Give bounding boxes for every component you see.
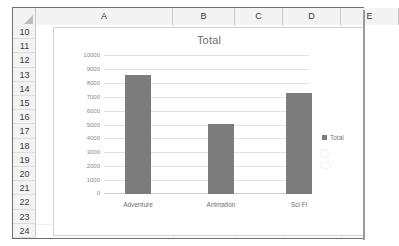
- row-header-23[interactable]: 23: [13, 210, 36, 224]
- bar-animation[interactable]: [208, 124, 234, 194]
- row-header-11[interactable]: 11: [13, 39, 36, 53]
- row-header-18[interactable]: 18: [13, 139, 36, 153]
- y-axis-tick-label: 9000: [87, 66, 100, 72]
- row-header-10[interactable]: 10: [13, 25, 36, 39]
- select-all-button[interactable]: [13, 8, 36, 25]
- y-axis-tick-label: 2000: [87, 163, 100, 169]
- scan-artifact: [320, 162, 331, 169]
- row-header-24[interactable]: 24: [13, 224, 36, 238]
- bar-sci-fi[interactable]: [286, 93, 312, 194]
- x-axis-label-animation: Animation: [207, 201, 236, 208]
- y-axis-tick-label: 10000: [83, 52, 100, 58]
- y-axis-tick-label: 0: [97, 190, 100, 196]
- select-all-triangle-icon: [24, 15, 33, 24]
- y-axis-tick-label: 1000: [87, 177, 100, 183]
- y-axis-tick-label: 7000: [87, 94, 100, 100]
- legend-swatch-icon: [322, 135, 327, 140]
- chart-plot-area: 10000 9000 8000 7000 6000 5000: [104, 55, 309, 194]
- chart-legend[interactable]: Total: [322, 134, 344, 141]
- bar-adventure[interactable]: [125, 75, 151, 194]
- spreadsheet-grid[interactable]: Total 10000 9000 8000 7000: [36, 25, 363, 238]
- row-header-17[interactable]: 17: [13, 124, 36, 138]
- spreadsheet-frame: A B C D E 10 11 12 13 14 15 16 17 18 19 …: [12, 7, 364, 239]
- row-header-15[interactable]: 15: [13, 96, 36, 110]
- x-axis-label-sci-fi: Sci Fi: [291, 201, 307, 208]
- row-header-19[interactable]: 19: [13, 153, 36, 167]
- row-header-21[interactable]: 21: [13, 181, 36, 195]
- embedded-bar-chart[interactable]: Total 10000 9000 8000 7000: [53, 27, 363, 236]
- y-axis-tick-label: 3000: [87, 149, 100, 155]
- y-axis-tick-label: 5000: [87, 122, 100, 128]
- column-header-d[interactable]: D: [283, 8, 341, 25]
- y-axis-tick-label: 6000: [87, 108, 100, 114]
- row-header-20[interactable]: 20: [13, 167, 36, 181]
- gridline: 10000: [104, 55, 309, 56]
- scan-artifact: [320, 149, 329, 158]
- row-header-22[interactable]: 22: [13, 195, 36, 209]
- y-axis-tick-label: 4000: [87, 135, 100, 141]
- legend-label-total: Total: [330, 134, 344, 141]
- y-axis-tick-label: 8000: [87, 80, 100, 86]
- x-axis-label-adventure: Adventure: [123, 201, 153, 208]
- chart-title: Total: [54, 34, 363, 46]
- column-header-c[interactable]: C: [235, 8, 283, 25]
- gridline: 9000: [104, 69, 309, 70]
- column-header-row: A B C D E: [13, 8, 363, 25]
- column-header-b[interactable]: B: [173, 8, 235, 25]
- row-header-12[interactable]: 12: [13, 53, 36, 67]
- row-header-16[interactable]: 16: [13, 110, 36, 124]
- column-header-e[interactable]: E: [341, 8, 399, 25]
- row-header-column: 10 11 12 13 14 15 16 17 18 19 20 21 22 2…: [13, 25, 36, 238]
- row-header-13[interactable]: 13: [13, 68, 36, 82]
- column-header-a[interactable]: A: [36, 8, 173, 25]
- row-header-14[interactable]: 14: [13, 82, 36, 96]
